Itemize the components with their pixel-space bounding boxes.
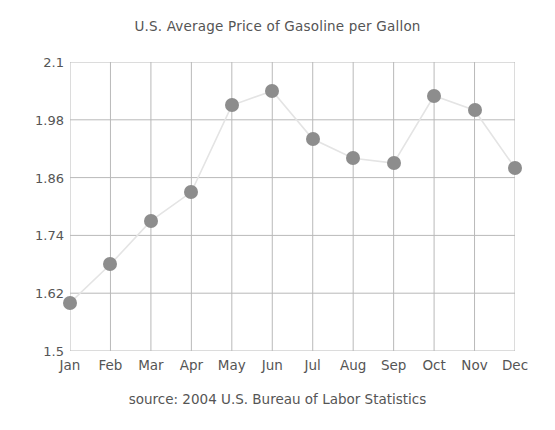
x-tick-label-jan: Jan (60, 357, 81, 373)
y-tick-label: 1.5 (8, 344, 64, 359)
x-tick-label-feb: Feb (99, 357, 123, 373)
x-tick-label-oct: Oct (422, 357, 445, 373)
x-tick-label-jun: Jun (262, 357, 283, 373)
y-axis-tick-labels: 2.11.981.861.741.621.5 (6, 62, 64, 351)
y-tick-label: 1.86 (8, 170, 64, 185)
x-tick-label-aug: Aug (340, 357, 366, 373)
x-tick-label-sep: Sep (381, 357, 406, 373)
x-tick-label-nov: Nov (461, 357, 487, 373)
y-tick-label: 1.74 (8, 228, 64, 243)
data-point-oct (427, 89, 441, 103)
data-point-mar (144, 214, 158, 228)
plot-grid-and-series (70, 62, 515, 351)
data-point-nov (468, 103, 482, 117)
x-tick-label-dec: Dec (502, 357, 528, 373)
data-point-jan (63, 296, 77, 310)
data-point-jul (306, 132, 320, 146)
x-tick-label-jul: Jul (305, 357, 321, 373)
x-tick-label-apr: Apr (180, 357, 203, 373)
y-tick-label: 2.1 (8, 55, 64, 70)
y-tick-label: 1.98 (8, 112, 64, 127)
data-point-dec (508, 161, 522, 175)
y-tick-label: 1.62 (8, 286, 64, 301)
plot-area (70, 62, 515, 351)
chart-title: U.S. Average Price of Gasoline per Gallo… (0, 18, 555, 34)
x-tick-label-mar: Mar (138, 357, 163, 373)
x-axis-tick-labels: JanFebMarAprMayJunJulAugSepOctNovDec (70, 357, 515, 379)
x-tick-label-may: May (218, 357, 246, 373)
chart-source-caption: source: 2004 U.S. Bureau of Labor Statis… (0, 391, 555, 407)
chart-figure: U.S. Average Price of Gasoline per Gallo… (0, 0, 555, 430)
data-point-sep (387, 156, 401, 170)
